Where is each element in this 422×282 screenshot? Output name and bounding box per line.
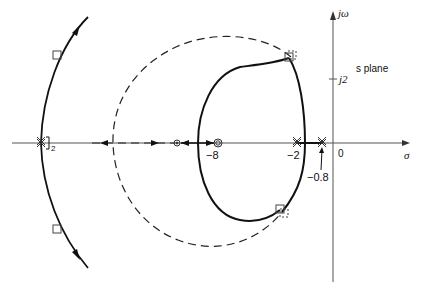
root-squares-dashed <box>280 51 296 217</box>
multiplicity-label: 2 <box>51 145 55 153</box>
imag-axis-label: jω <box>338 8 349 19</box>
pole-markers <box>37 137 326 147</box>
dashed-locus-circle <box>92 36 291 246</box>
imaginary-axis <box>329 11 337 282</box>
root-squares <box>53 51 293 233</box>
pole-minus2-label: −2 <box>287 150 300 161</box>
plane-label: s plane <box>356 64 388 74</box>
annotation-arrow <box>319 147 324 170</box>
imag-tick-label: j2 <box>339 74 348 85</box>
origin-label: 0 <box>338 149 344 159</box>
real-axis-label: σ <box>404 150 409 161</box>
zero-minus8-label: −8 <box>206 150 219 161</box>
pole-minus0-8-label: −0.8 <box>307 172 329 183</box>
root-locus-plot <box>0 0 422 282</box>
